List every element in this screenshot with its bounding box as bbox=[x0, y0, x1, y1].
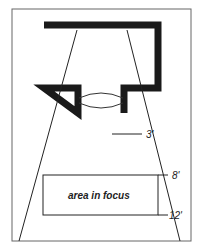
camera-body bbox=[44, 25, 158, 113]
focus-area-label: area in focus bbox=[68, 190, 130, 201]
depth-of-field-diagram: 3' area in focus 8' 12' bbox=[0, 0, 197, 250]
ray-left bbox=[19, 30, 77, 241]
label-3ft: 3' bbox=[146, 129, 155, 140]
frame-border bbox=[12, 9, 191, 241]
lens-icon bbox=[79, 93, 123, 108]
label-12ft: 12' bbox=[169, 210, 183, 221]
label-8ft: 8' bbox=[172, 170, 181, 181]
